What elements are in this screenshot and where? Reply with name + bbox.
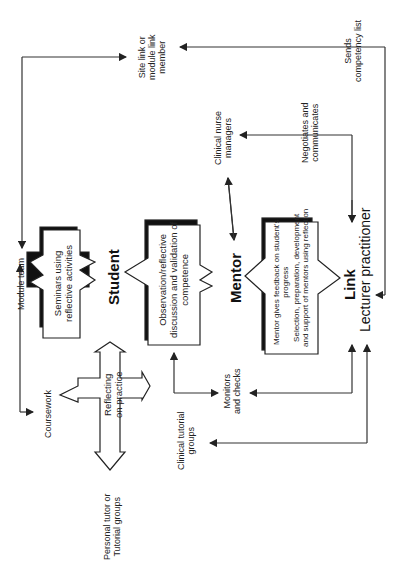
label-personal-tutor: Personal tutor or Tutorial groups <box>102 493 122 560</box>
label-lecturer-practitioner: Lecturer practitioner <box>358 207 374 332</box>
label-clinical-tutorial-groups: Clinical tutorial groups <box>176 411 196 470</box>
label-site-link: Site link or module link member <box>137 34 167 80</box>
text-reflecting: Reflecting on practice <box>103 372 125 418</box>
text-seminars: Seminars using reflective activities <box>53 245 75 322</box>
label-mentor: Mentor <box>228 253 245 303</box>
label-negotiates: Negotiates and communicates <box>300 102 320 163</box>
label-module-team: Module team <box>16 258 26 310</box>
text-mentor-feedback: Mentor gives feedback on student's progr… <box>272 219 290 345</box>
text-mentor-selection: Selection, preparation, development and … <box>292 209 310 347</box>
label-sends-competency: Sends competency list <box>343 20 363 82</box>
text-observation: Observation/reflective discussion and va… <box>158 222 191 338</box>
label-coursework: Coursework <box>43 390 53 438</box>
label-student: Student <box>106 249 123 305</box>
label-clinical-nurse-managers: Clinical nurse managers <box>213 111 233 165</box>
label-monitors: Monitors and checks <box>222 368 242 414</box>
